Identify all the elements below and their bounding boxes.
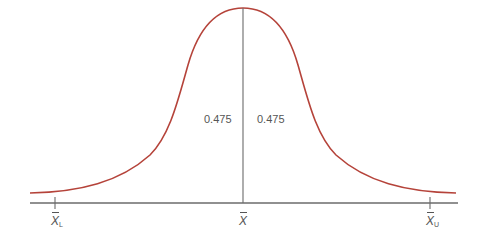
overline (240, 212, 247, 213)
tick-label-upper: XU (426, 214, 439, 228)
normal-distribution-chart (0, 0, 482, 248)
overline (427, 212, 434, 213)
tick-label-mean: X (239, 214, 247, 228)
overline (52, 212, 59, 213)
right-area-label: 0.475 (257, 113, 285, 125)
left-area-label: 0.475 (204, 113, 232, 125)
tick-label-lower: XL (51, 214, 63, 228)
